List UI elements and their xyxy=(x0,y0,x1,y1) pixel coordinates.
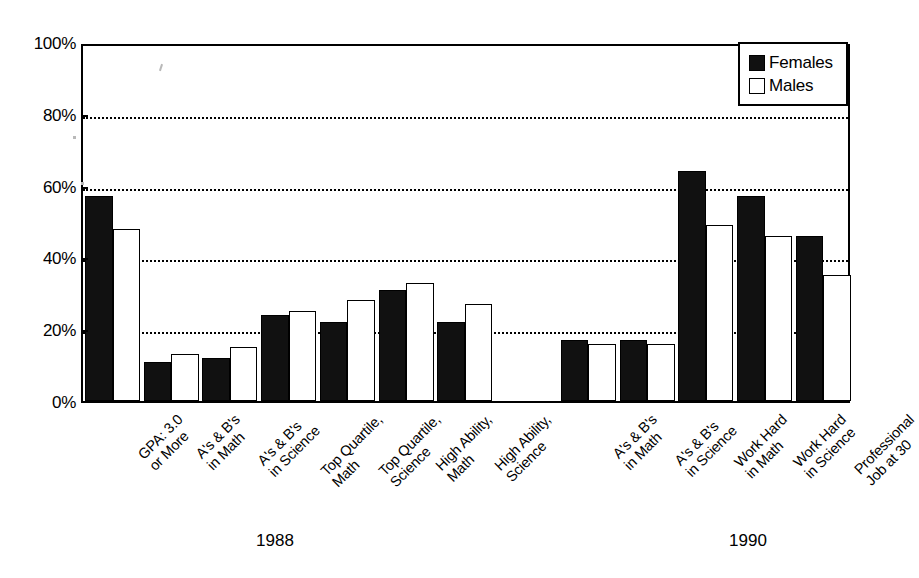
y-axis-tick-mark xyxy=(81,187,88,189)
bar-males-5 xyxy=(406,283,434,401)
y-axis-tick-label: 60% xyxy=(6,179,76,196)
x-axis-group-label: 1988 xyxy=(215,532,335,550)
bar-females-7 xyxy=(561,340,589,401)
bar-males-9 xyxy=(706,225,734,401)
legend-label-females: Females xyxy=(769,54,833,72)
bar-males-4 xyxy=(347,300,375,401)
x-axis-category-label: Professional Job at 30 xyxy=(852,412,919,489)
x-axis-group-label: 1990 xyxy=(688,532,808,550)
bar-males-1 xyxy=(171,354,199,401)
bar-males-2 xyxy=(230,347,258,401)
bar-males-10 xyxy=(765,236,793,401)
gridline xyxy=(83,189,848,191)
bar-males-0 xyxy=(113,229,141,401)
chart-legend: Females Males xyxy=(738,42,848,106)
y-axis: 100%80%60%40%20%0% xyxy=(0,0,76,578)
bar-males-3 xyxy=(289,311,317,401)
x-axis-category-label: A's & B's in Science xyxy=(672,412,740,480)
bar-males-11 xyxy=(823,275,851,401)
x-axis-category-label: A's & B's in Math xyxy=(193,412,254,473)
bar-females-3 xyxy=(261,315,289,401)
x-axis-category-label: GPA: 3.0 or More xyxy=(135,412,197,474)
x-axis-category-label: High Ability, Science xyxy=(492,412,565,485)
legend-item-males: Males xyxy=(749,74,838,97)
legend-item-females: Females xyxy=(749,51,838,74)
x-axis-category-label: A's & B's in Science xyxy=(255,412,323,480)
bar-males-6 xyxy=(465,304,493,401)
x-axis-category-label: Work Hard in Math xyxy=(731,412,800,481)
y-axis-tick-label: 40% xyxy=(6,250,76,267)
y-axis-tick-mark xyxy=(81,115,88,117)
x-axis-category-label: Work Hard in Science xyxy=(790,412,859,481)
y-axis-tick-label: 20% xyxy=(6,322,76,339)
bar-females-6 xyxy=(437,322,465,401)
y-axis-tick-mark xyxy=(81,258,88,260)
bar-females-9 xyxy=(678,171,706,401)
bar-males-8 xyxy=(647,344,675,401)
legend-swatch-males-icon xyxy=(749,78,765,94)
bar-females-2 xyxy=(202,358,230,401)
bar-females-5 xyxy=(379,290,407,401)
bar-females-10 xyxy=(737,196,765,401)
y-axis-tick-label: 80% xyxy=(6,107,76,124)
y-axis-tick-label: 100% xyxy=(6,35,76,52)
legend-label-males: Males xyxy=(769,77,813,95)
x-axis-category-label: Top Quartile, Math xyxy=(318,412,396,490)
y-axis-tick-label: 0% xyxy=(6,394,76,411)
bar-females-1 xyxy=(144,362,172,401)
x-axis-category-label: A's & B's in Math xyxy=(611,412,672,473)
bar-females-4 xyxy=(320,322,348,401)
bar-females-11 xyxy=(796,236,824,401)
bar-males-7 xyxy=(588,344,616,401)
legend-swatch-females-icon xyxy=(749,55,765,71)
bar-females-0 xyxy=(85,196,113,401)
bar-females-8 xyxy=(620,340,648,401)
y-axis-tick-mark xyxy=(81,330,88,332)
gridline xyxy=(83,117,848,119)
chart-plot-area xyxy=(81,44,850,403)
